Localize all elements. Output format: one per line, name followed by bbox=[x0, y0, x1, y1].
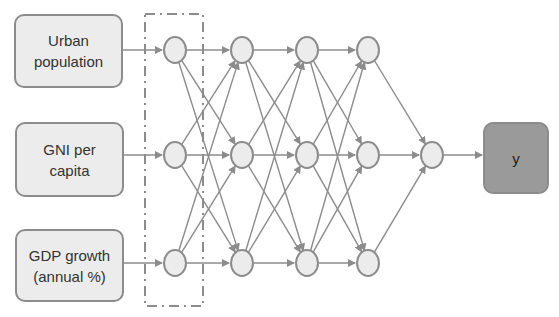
input-box-gdp-growth: GDP growth (annual %) bbox=[15, 229, 124, 302]
neuron-node bbox=[231, 142, 253, 168]
input-label: GNI per capita bbox=[43, 139, 96, 181]
neuron-node bbox=[164, 250, 186, 276]
neuron-node bbox=[164, 37, 186, 63]
input-label: Urban population bbox=[34, 30, 103, 72]
connection-arrow bbox=[374, 60, 425, 144]
input-box-gni-per-capita: GNI per capita bbox=[15, 122, 124, 197]
neuron-node bbox=[357, 37, 379, 63]
input-box-urban-population: Urban population bbox=[14, 14, 123, 88]
input-label: GDP growth (annual %) bbox=[29, 245, 110, 287]
neuron-node bbox=[231, 250, 253, 276]
neuron-node bbox=[357, 250, 379, 276]
neuron-node bbox=[164, 142, 186, 168]
neuron-node bbox=[296, 250, 318, 276]
neuron-node bbox=[421, 142, 443, 168]
neuron-node bbox=[296, 142, 318, 168]
output-box-y: y bbox=[483, 122, 549, 194]
neuron-node bbox=[296, 37, 318, 63]
connection-arrow bbox=[374, 166, 425, 252]
output-label: y bbox=[512, 148, 520, 169]
neuron-node bbox=[231, 37, 253, 63]
neuron-node bbox=[357, 142, 379, 168]
